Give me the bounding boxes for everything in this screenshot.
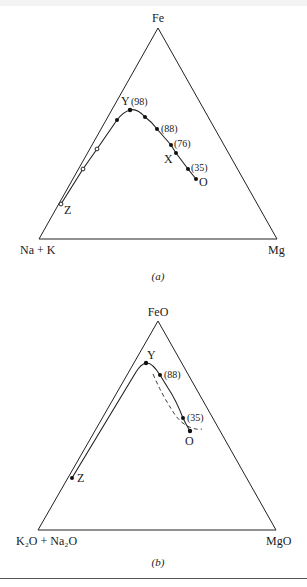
vertex-label-k2o-na2o: K₂O + Na₂O — [16, 534, 77, 548]
trend-line-solid-b — [72, 363, 190, 478]
bottom-rule — [0, 578, 307, 579]
vertex-label-na-k: Na + K — [20, 243, 56, 257]
label-88: (88) — [164, 369, 181, 381]
label-88: (88) — [161, 123, 178, 135]
open-point — [81, 167, 85, 171]
label-z: Z — [64, 203, 71, 217]
label-z: Z — [77, 471, 84, 485]
vertex-label-mg: Mg — [268, 243, 285, 257]
open-point — [95, 147, 99, 151]
point-x — [174, 151, 178, 155]
point-o — [194, 177, 198, 181]
caption-b: (b) — [152, 556, 165, 569]
ternary-figures: Fe Na + K Mg Y (98) (88) (76) X (35) O Z… — [0, 0, 307, 587]
vertex-label-mgo: MgO — [266, 534, 292, 548]
point-76 — [169, 143, 173, 147]
caption-a: (a) — [152, 270, 165, 283]
point-88 — [158, 373, 162, 377]
point-88 — [155, 127, 159, 131]
label-o: O — [185, 434, 194, 448]
point-z — [70, 476, 74, 480]
point-z — [59, 202, 63, 206]
ternary-diagram-b: FeO K₂O + Na₂O MgO Y (88) (35) O Z (b) — [16, 305, 292, 569]
ternary-diagram-a: Fe Na + K Mg Y (98) (88) (76) X (35) O Z… — [20, 11, 285, 283]
label-y-98: (98) — [131, 96, 148, 108]
point-35 — [186, 167, 190, 171]
label-35: (35) — [187, 412, 204, 424]
point — [143, 115, 147, 119]
label-y: Y — [121, 94, 130, 108]
point — [115, 118, 119, 122]
point-y — [128, 108, 132, 112]
vertex-label-fe: Fe — [152, 11, 164, 25]
label-76: (76) — [174, 138, 191, 150]
triangle-b — [38, 321, 276, 530]
vertex-label-feo: FeO — [148, 305, 169, 319]
label-35: (35) — [191, 162, 208, 174]
point-o — [188, 429, 192, 433]
triangle-a — [39, 28, 277, 239]
label-y: Y — [147, 348, 156, 362]
label-x: X — [164, 152, 173, 166]
point-35 — [181, 416, 185, 420]
label-o: O — [199, 175, 208, 189]
